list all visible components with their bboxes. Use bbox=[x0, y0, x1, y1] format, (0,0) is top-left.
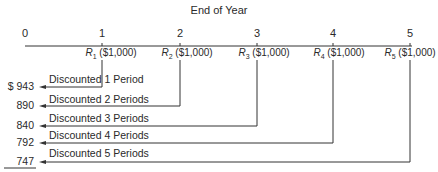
receipt-label-1: R1 ($1,000) bbox=[85, 47, 136, 60]
receipt-label-2: R2 ($1,000) bbox=[161, 47, 212, 60]
receipt-label-4: R4 ($1,000) bbox=[313, 47, 364, 60]
discount-label-2: Discounted 2 Periods bbox=[49, 93, 149, 105]
present-value-2: 890 bbox=[0, 99, 34, 111]
arrow-icon bbox=[39, 160, 46, 164]
discount-label-4: Discounted 4 Periods bbox=[49, 129, 149, 141]
present-value-5: 747 bbox=[0, 155, 34, 167]
arrow-icon bbox=[39, 85, 46, 89]
arrow-icon bbox=[39, 124, 46, 128]
present-value-3: 840 bbox=[0, 119, 34, 131]
arrow-icon bbox=[39, 141, 46, 145]
receipt-label-5: R5 ($1,000) bbox=[384, 47, 435, 60]
present-value-1: $ 943 bbox=[0, 80, 34, 92]
discount-label-3: Discounted 3 Periods bbox=[49, 112, 149, 124]
present-value-4: 792 bbox=[0, 136, 34, 148]
arrow-icon bbox=[39, 104, 46, 108]
discount-label-1: Discounted 1 Period bbox=[49, 73, 144, 85]
discount-label-5: Discounted 5 Periods bbox=[49, 147, 149, 159]
receipt-label-3: R3 ($1,000) bbox=[238, 47, 289, 60]
